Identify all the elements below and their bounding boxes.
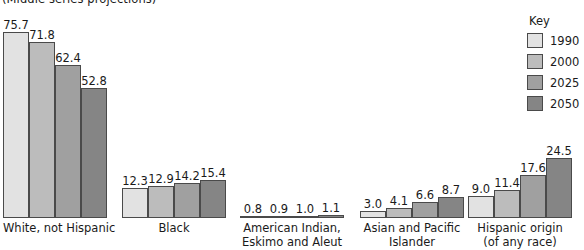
- bar[interactable]: 17.6: [520, 175, 546, 218]
- legend-swatch-icon: [527, 75, 543, 90]
- bar-value-label: 3.0: [364, 198, 382, 211]
- bar-value-label: 6.6: [416, 189, 434, 202]
- bar-value-label: 15.4: [200, 167, 226, 180]
- bar-value-label: 12.9: [148, 173, 174, 186]
- bar-slot: 1.0: [292, 28, 318, 218]
- bar-value-label: 24.5: [546, 145, 572, 158]
- bar-slot: 0.9: [266, 28, 292, 218]
- bar[interactable]: 1.0: [292, 216, 318, 218]
- bar-group-bars: 3.04.16.68.7: [360, 28, 464, 218]
- category-label: American Indian,Eskimo and Aleut: [240, 222, 344, 249]
- bar-value-label: 4.1: [390, 195, 408, 208]
- bar-slot: 12.9: [148, 28, 174, 218]
- bar[interactable]: 52.8: [81, 88, 107, 218]
- category-label-line1: White, not Hispanic: [3, 221, 115, 235]
- bar[interactable]: 12.3: [122, 188, 148, 218]
- bar-group-bars: 0.80.91.01.1: [240, 28, 344, 218]
- bar-slot: 1.1: [318, 28, 344, 218]
- bar[interactable]: 14.2: [174, 183, 200, 218]
- bar-slot: 0.8: [240, 28, 266, 218]
- legend-title: Key: [527, 14, 583, 28]
- bar-value-label: 8.7: [442, 184, 460, 197]
- bar[interactable]: 9.0: [468, 196, 494, 218]
- legend-item-2000[interactable]: 2000: [527, 53, 583, 70]
- bar-slot: 71.8: [29, 28, 55, 218]
- bar-value-label: 0.9: [270, 203, 288, 216]
- bar-group-bars: 75.771.862.452.8: [3, 28, 107, 218]
- bar[interactable]: 8.7: [438, 197, 464, 218]
- bar[interactable]: 6.6: [412, 202, 438, 218]
- chart-root: (Middle series projections) 75.771.862.4…: [0, 0, 584, 250]
- bar[interactable]: 24.5: [546, 158, 572, 218]
- category-label-line1: Asian and Pacific: [364, 221, 461, 235]
- bar-group: 3.04.16.68.7Asian and PacificIslander: [360, 32, 464, 218]
- bar-value-label: 1.1: [322, 202, 340, 215]
- category-label-line1: Hispanic origin: [477, 221, 562, 235]
- category-label-line2: Eskimo and Aleut: [240, 236, 344, 250]
- bar-group: 12.312.914.215.4Black: [122, 32, 226, 218]
- category-label-line2: Islander: [360, 236, 464, 250]
- category-label: Black: [122, 222, 226, 236]
- bar[interactable]: 1.1: [318, 215, 344, 218]
- bar-slot: 75.7: [3, 28, 29, 218]
- legend-swatch-icon: [527, 96, 543, 111]
- bar[interactable]: 0.8: [240, 216, 266, 218]
- bar-slot: 3.0: [360, 28, 386, 218]
- bar-group: 0.80.91.01.1American Indian,Eskimo and A…: [240, 32, 344, 218]
- legend-item-label: 2000: [550, 55, 579, 69]
- category-label: Asian and PacificIslander: [360, 222, 464, 249]
- bar-group-bars: 12.312.914.215.4: [122, 28, 226, 218]
- bar-value-label: 12.3: [122, 175, 148, 188]
- bar-slot: 14.2: [174, 28, 200, 218]
- bar[interactable]: 11.4: [494, 190, 520, 218]
- category-label-line1: American Indian,: [243, 221, 341, 235]
- bar[interactable]: 62.4: [55, 65, 81, 218]
- legend-item-1990[interactable]: 1990: [527, 32, 583, 49]
- legend-item-label: 2050: [550, 97, 579, 111]
- legend-swatch-icon: [527, 33, 543, 48]
- bar-slot: 52.8: [81, 28, 107, 218]
- category-label: White, not Hispanic: [3, 222, 107, 236]
- bar-value-label: 17.6: [520, 162, 546, 175]
- bar-value-label: 62.4: [55, 52, 81, 65]
- chart-legend: Key 1990200020252050: [527, 14, 583, 116]
- bar-value-label: 11.4: [494, 177, 520, 190]
- bar-slot: 9.0: [468, 28, 494, 218]
- bar-value-label: 1.0: [296, 203, 314, 216]
- bar[interactable]: 71.8: [29, 42, 55, 218]
- bar-value-label: 71.8: [29, 29, 55, 42]
- bar-slot: 62.4: [55, 28, 81, 218]
- category-label: Hispanic origin(of any race): [468, 222, 572, 249]
- bar-value-label: 52.8: [81, 75, 107, 88]
- bar[interactable]: 75.7: [3, 32, 29, 218]
- bar-slot: 15.4: [200, 28, 226, 218]
- bar-slot: 6.6: [412, 28, 438, 218]
- legend-swatch-icon: [527, 54, 543, 69]
- bar[interactable]: 3.0: [360, 211, 386, 218]
- category-label-line2: (of any race): [468, 236, 572, 250]
- bar[interactable]: 4.1: [386, 208, 412, 218]
- bar[interactable]: 0.9: [266, 216, 292, 218]
- bar-value-label: 9.0: [472, 183, 490, 196]
- category-label-line1: Black: [158, 221, 189, 235]
- bar-slot: 11.4: [494, 28, 520, 218]
- legend-item-label: 2025: [550, 76, 579, 90]
- legend-item-2025[interactable]: 2025: [527, 74, 583, 91]
- bar-value-label: 0.8: [244, 203, 262, 216]
- bar-group: 75.771.862.452.8White, not Hispanic: [3, 32, 107, 218]
- bar[interactable]: 15.4: [200, 180, 226, 218]
- legend-item-2050[interactable]: 2050: [527, 95, 583, 112]
- bar[interactable]: 12.9: [148, 186, 174, 218]
- bar-value-label: 14.2: [174, 170, 200, 183]
- legend-items: 1990200020252050: [527, 32, 583, 112]
- bar-slot: 8.7: [438, 28, 464, 218]
- bar-slot: 4.1: [386, 28, 412, 218]
- plot-area: 75.771.862.452.8White, not Hispanic12.31…: [0, 0, 584, 250]
- bar-value-label: 75.7: [3, 19, 29, 32]
- bar-slot: 12.3: [122, 28, 148, 218]
- legend-item-label: 1990: [550, 34, 579, 48]
